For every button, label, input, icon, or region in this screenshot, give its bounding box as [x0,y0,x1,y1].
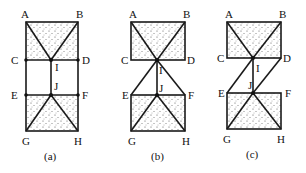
shaded-bottom-rect [131,95,185,131]
label-I: I [256,62,260,74]
label-H: H [74,135,82,147]
label-E: E [11,89,18,101]
label-J: J [248,79,253,91]
panel-c: A B C D I J E F G H (c) [217,8,291,161]
label-F: F [188,89,194,101]
label-A: A [129,8,137,20]
label-E: E [218,87,225,99]
label-B: B [183,8,190,20]
label-C: C [217,52,224,64]
label-B: B [279,8,286,20]
label-C: C [121,54,128,66]
label-D: D [82,54,90,66]
label-B: B [76,8,83,20]
shaded-bottom-region [26,95,78,131]
panel-a-nodes [24,58,80,97]
label-F: F [82,89,88,101]
label-F: F [285,87,291,99]
label-J: J [54,80,59,92]
label-H: H [277,133,285,145]
label-I: I [55,61,59,73]
panel-b: A B C D I J E F G H (b) [121,8,195,163]
label-D: D [283,52,291,64]
label-H: H [182,135,190,147]
label-G: G [128,135,136,147]
shaded-top-rect [227,22,281,58]
label-I: I [159,64,163,76]
caption-c: (c) [246,148,259,161]
label-E: E [122,89,129,101]
shaded-bottom-rect [227,93,281,129]
caption-b: (b) [151,150,164,163]
label-C: C [11,54,18,66]
label-D: D [187,54,195,66]
shaded-top-rect [131,22,185,60]
label-A: A [225,8,233,20]
panel-a: A B C D I J E F G H (a) [11,8,90,163]
label-J: J [159,82,164,94]
caption-a: (a) [44,150,57,163]
figure-canvas: A B C D I J E F G H (a) A B C D [0,0,306,173]
label-G: G [22,135,30,147]
label-A: A [21,8,29,20]
label-G: G [223,133,231,145]
